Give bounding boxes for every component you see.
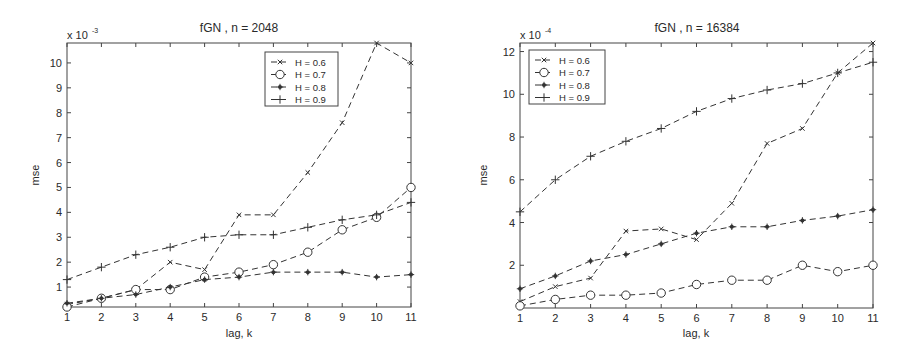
x-tick-label: 3 [133, 311, 139, 323]
y-scale-label: x 10 [520, 29, 541, 41]
series-h-0-7 [516, 261, 877, 310]
x-tick-label: 1 [64, 311, 70, 323]
y-tick-label: 10 [50, 57, 62, 69]
y-axis-label: mse [29, 165, 41, 186]
y-scale-factor: x 10 -3 [67, 27, 98, 41]
series-h-0-7 [63, 183, 415, 311]
y-tick-label: 2 [509, 259, 515, 271]
y-tick-label: 6 [56, 157, 62, 169]
legend-item: H = 0.7 [271, 69, 326, 80]
legend-label: H = 0.6 [295, 57, 326, 68]
legend-label: H = 0.8 [559, 80, 590, 91]
y-scale-exponent: -3 [92, 27, 98, 34]
y-scale-exponent: -4 [545, 27, 551, 34]
y-tick-label: 4 [56, 206, 62, 218]
legend-label: H = 0.7 [559, 67, 590, 78]
x-tick-label: 7 [270, 311, 276, 323]
x-tick-label: 6 [693, 312, 699, 324]
y-tick-label: 3 [56, 231, 62, 243]
x-tick-label: 9 [339, 311, 345, 323]
legend-item: H = 0.7 [535, 67, 590, 78]
y-tick-label: 8 [509, 131, 515, 143]
x-tick-label: 5 [658, 312, 664, 324]
y-tick-label: 12 [503, 46, 515, 58]
legend-label: H = 0.8 [295, 82, 326, 93]
y-tick-label: 7 [56, 132, 62, 144]
y-tick-label: 8 [56, 107, 62, 119]
x-tick-label: 8 [305, 311, 311, 323]
chart-fgn-2048: fGN , n = 2048 x 10 -3 1234567891011 123… [29, 21, 417, 339]
x-tick-label: 1 [517, 312, 523, 324]
y-axis: 12345678910 [50, 57, 411, 293]
x-tick-label: 4 [623, 312, 629, 324]
chart-fgn-16384: fGN , n = 16384 x 10 -4 1234567891011 24… [477, 21, 879, 339]
x-axis-label: lag, k [226, 327, 253, 339]
legend-label: H = 0.9 [559, 92, 590, 103]
chart-title: fGN , n = 2048 [200, 21, 279, 35]
y-tick-label: 4 [509, 217, 515, 229]
y-tick-label: 5 [56, 181, 62, 193]
series-h-0-8 [517, 206, 876, 291]
x-tick-label: 5 [202, 311, 208, 323]
x-tick-label: 3 [588, 312, 594, 324]
x-tick-label: 7 [729, 312, 735, 324]
y-scale-label: x 10 [67, 29, 88, 41]
y-scale-factor: x 10 -4 [520, 27, 551, 41]
y-tick-label: 2 [56, 256, 62, 268]
plot-area [67, 43, 411, 307]
figure: fGN , n = 2048 x 10 -3 1234567891011 123… [0, 0, 913, 357]
y-tick-label: 6 [509, 174, 515, 186]
chart-title: fGN , n = 16384 [654, 21, 739, 35]
legend: H = 0.6H = 0.7H = 0.8H = 0.9 [265, 52, 338, 106]
legend-label: H = 0.9 [295, 94, 326, 105]
x-tick-label: 6 [236, 311, 242, 323]
y-tick-label: 10 [503, 88, 515, 100]
x-tick-label: 11 [867, 312, 878, 324]
legend-label: H = 0.6 [559, 55, 590, 66]
x-tick-label: 2 [552, 312, 558, 324]
series-h-0-8 [64, 269, 414, 307]
x-tick-label: 11 [405, 311, 416, 323]
y-tick-label: 9 [56, 82, 62, 94]
y-tick-label: 1 [56, 281, 62, 293]
series-h-0-6 [65, 41, 413, 307]
x-axis: 1234567891011 [64, 43, 417, 323]
y-axis-label: mse [477, 165, 489, 186]
x-tick-label: 2 [98, 311, 104, 323]
x-tick-label: 10 [832, 312, 844, 324]
legend-label: H = 0.7 [295, 69, 326, 80]
x-tick-label: 8 [764, 312, 770, 324]
x-tick-label: 4 [167, 311, 173, 323]
legend: H = 0.6H = 0.7H = 0.8H = 0.9 [529, 50, 605, 104]
x-axis-label: lag, k [683, 327, 710, 339]
x-tick-label: 9 [799, 312, 805, 324]
series-lines [63, 41, 415, 311]
x-tick-label: 10 [370, 311, 382, 323]
